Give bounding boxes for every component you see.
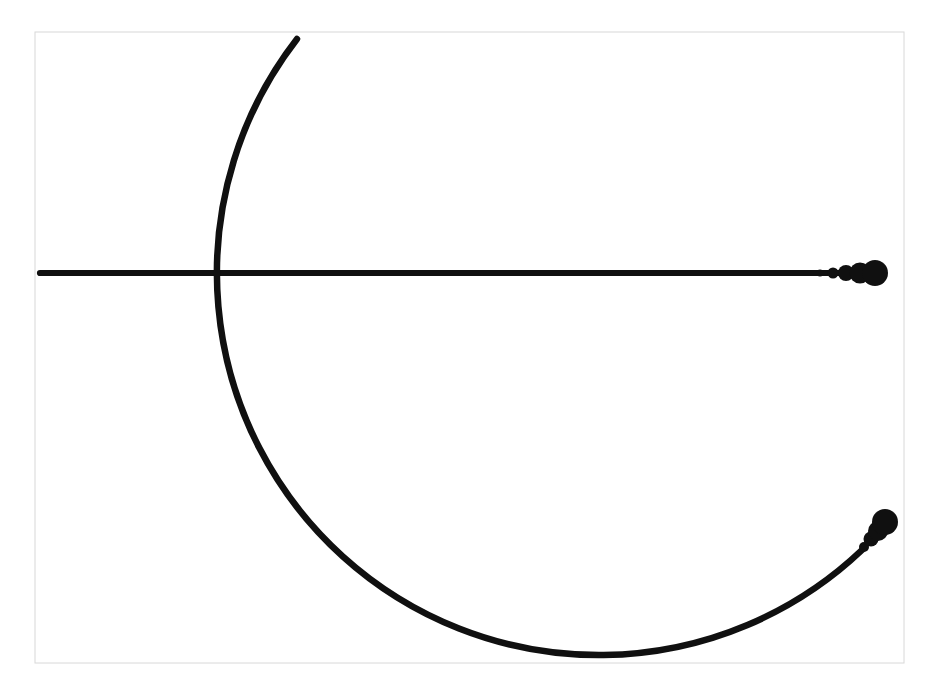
line-end-blob-dot [817, 270, 824, 277]
figure-canvas [0, 0, 932, 691]
line-end-blob-dot [862, 260, 888, 286]
figure-frame [35, 32, 904, 663]
arc-end-blob-dot [872, 509, 898, 535]
scanned-figure-page [0, 0, 932, 691]
line-end-blob-dot [828, 268, 839, 279]
